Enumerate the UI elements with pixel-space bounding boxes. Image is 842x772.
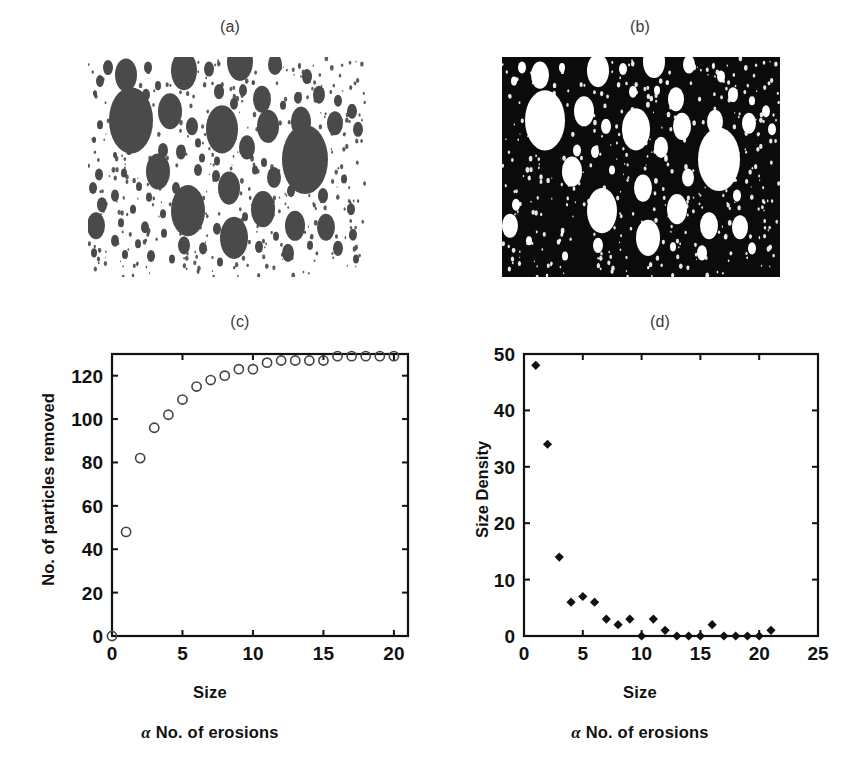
image-a-speckle: [271, 204, 275, 209]
image-a-speckle: [324, 158, 325, 160]
data-point: [121, 527, 130, 536]
image-a-speckle: [92, 70, 94, 74]
image-a-speckle: [211, 153, 214, 157]
image-b-speckle: [769, 61, 770, 63]
image-b-particle: [748, 242, 756, 254]
image-a-speckle: [154, 183, 157, 187]
image-b-speckle: [684, 164, 688, 170]
image-a-speckle: [308, 272, 310, 275]
image-b-speckle: [690, 81, 692, 85]
image-b-speckle: [620, 248, 622, 251]
image-b-speckle: [687, 195, 690, 200]
image-b-speckle: [662, 62, 664, 64]
image-a-speckle: [286, 194, 288, 197]
image-b-speckle: [656, 256, 659, 261]
image-a-speckle: [294, 142, 297, 147]
image-a-particle: [89, 182, 97, 194]
image-b-speckle: [536, 231, 538, 234]
image-a-speckle: [221, 117, 223, 120]
image-a-speckle: [279, 65, 283, 70]
y-tick-label: 20: [494, 513, 515, 534]
image-b-speckle: [541, 248, 543, 251]
image-a-speckle: [125, 139, 126, 141]
image-a-speckle: [335, 234, 338, 239]
image-b-speckle: [676, 255, 679, 260]
image-a-speckle: [347, 265, 348, 267]
image-b-speckle: [664, 155, 667, 160]
image-a-speckle: [118, 210, 121, 215]
image-a-speckle: [94, 94, 97, 99]
image-b-speckle: [719, 166, 722, 170]
x-tick-label: 5: [578, 643, 589, 664]
image-b-speckle: [770, 78, 773, 83]
image-b-speckle: [670, 225, 672, 229]
image-b-speckle: [604, 77, 606, 80]
image-b-speckle: [744, 65, 748, 71]
image-a-speckle: [248, 187, 251, 191]
image-a-speckle: [278, 209, 281, 213]
image-b-speckle: [578, 182, 581, 186]
data-point-core: [580, 594, 585, 599]
image-a-speckle: [147, 231, 150, 235]
image-a-speckle: [218, 212, 221, 216]
data-point: [192, 382, 201, 391]
image-a-speckle: [298, 63, 300, 67]
data-point-core: [733, 633, 738, 638]
image-a-speckle: [349, 219, 352, 223]
image-a-speckle: [209, 173, 210, 175]
image-b-speckle: [714, 75, 716, 78]
image-b-speckle: [721, 130, 724, 134]
image-b-speckle: [774, 61, 778, 66]
image-b-speckle: [753, 74, 756, 78]
data-point-core: [698, 633, 703, 638]
image-a-speckle: [329, 90, 332, 94]
image-b-speckle: [767, 200, 769, 203]
image-b-speckle: [557, 239, 561, 244]
image-b-speckle: [768, 81, 771, 85]
image-b-speckle: [563, 272, 564, 274]
image-b-speckle: [595, 198, 598, 202]
image-a-speckle: [272, 200, 275, 204]
image-a-speckle: [179, 129, 182, 133]
image-b-speckle: [529, 156, 533, 162]
x-tick-label: 15: [690, 643, 712, 664]
image-b-speckle: [589, 216, 592, 220]
image-b-speckle: [762, 186, 764, 189]
image-b-speckle: [519, 101, 521, 104]
image-a-speckle: [292, 169, 294, 172]
image-a-speckle: [278, 120, 282, 125]
image-b-speckle: [747, 84, 749, 88]
image-a-speckle: [102, 206, 104, 209]
image-b-speckle: [768, 229, 769, 231]
image-a-speckle: [199, 226, 201, 230]
image-b-speckle: [737, 205, 740, 210]
image-a-speckle: [91, 138, 92, 140]
image-a-speckle: [334, 170, 337, 175]
image-b-speckle: [679, 242, 681, 245]
image-a-speckle: [345, 236, 346, 238]
image-a-speckle: [345, 133, 346, 135]
image-a-speckle: [319, 73, 322, 77]
data-point: [277, 356, 286, 365]
image-a-speckle: [355, 139, 358, 144]
image-b-speckle: [539, 179, 542, 183]
image-a-speckle: [291, 256, 294, 260]
image-a-particle: [199, 153, 205, 162]
image-b-speckle: [611, 266, 614, 271]
data-point: [206, 375, 215, 384]
image-a-speckle: [350, 226, 352, 230]
image-b-speckle: [745, 252, 747, 255]
image-b-speckle: [596, 74, 599, 79]
image-a-speckle: [226, 176, 228, 179]
data-point-core: [768, 628, 773, 633]
data-point-core: [757, 633, 762, 638]
image-b-speckle: [626, 179, 628, 182]
image-b-speckle: [534, 210, 538, 215]
image-a-speckle: [332, 256, 334, 259]
image-a-particle: [204, 62, 214, 77]
image-b-speckle: [569, 238, 571, 242]
image-a-speckle: [263, 211, 265, 215]
image-b-speckle: [739, 112, 741, 115]
y-tick-label: 60: [82, 496, 103, 517]
image-a-speckle: [126, 213, 128, 216]
